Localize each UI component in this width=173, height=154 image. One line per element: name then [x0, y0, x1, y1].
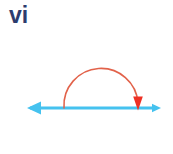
figure-canvas: vi	[0, 0, 173, 154]
number-line-left-arrowhead-icon	[27, 102, 41, 115]
number-line-right-arrowhead-icon	[152, 104, 161, 112]
diagram-graphic	[0, 0, 173, 154]
rotation-arc-path	[64, 68, 138, 108]
